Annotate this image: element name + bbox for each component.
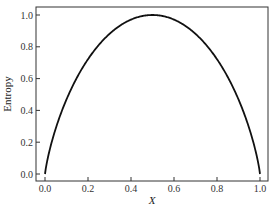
y-tick-label: 0.6	[21, 73, 34, 84]
x-axis-label: X	[148, 194, 157, 206]
y-tick-label: 0.2	[21, 137, 34, 148]
y-tick-label: 0.8	[21, 41, 34, 52]
y-axis: 0.00.20.40.60.81.0	[21, 10, 41, 180]
y-tick-label: 0.0	[21, 169, 34, 180]
entropy-chart: 0.00.20.40.60.81.0 0.00.20.40.60.81.0 X …	[0, 0, 271, 214]
entropy-curve	[45, 15, 260, 174]
y-tick-label: 1.0	[21, 10, 34, 21]
y-axis-label: Entropy	[1, 76, 13, 112]
x-tick-label: 0.0	[39, 183, 52, 194]
x-tick-label: 0.4	[125, 183, 138, 194]
x-tick-label: 0.6	[168, 183, 181, 194]
x-tick-label: 0.2	[82, 183, 95, 194]
x-tick-label: 0.8	[211, 183, 224, 194]
plot-frame	[36, 7, 268, 181]
x-tick-label: 1.0	[254, 183, 267, 194]
x-axis: 0.00.20.40.60.81.0	[39, 177, 267, 194]
y-tick-label: 0.4	[21, 105, 34, 116]
